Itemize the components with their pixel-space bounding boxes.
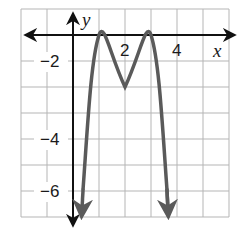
x-tick-2: 2 — [120, 41, 129, 60]
x-tick-4: 4 — [172, 41, 181, 60]
y-axis-label: y — [80, 9, 91, 30]
y-tick-minus-4: −4 — [40, 130, 59, 149]
x-axis-label: x — [212, 40, 222, 61]
left-end-arrow — [82, 189, 84, 216]
graph: y x 2 4 −2 −4 −6 — [0, 0, 239, 244]
y-tick-minus-2: −2 — [40, 52, 59, 71]
y-tick-minus-6: −6 — [40, 182, 59, 201]
right-end-arrow — [167, 189, 168, 216]
